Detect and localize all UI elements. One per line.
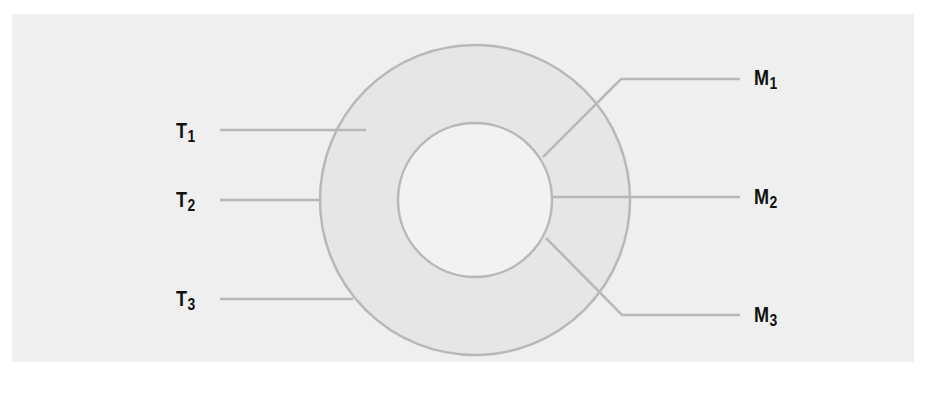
label-t2-letter: T: [176, 187, 187, 212]
label-t1-letter: T: [176, 118, 187, 143]
label-t1: T1: [176, 120, 195, 145]
label-m2-index: 2: [769, 193, 776, 212]
label-t2: T2: [176, 189, 195, 214]
label-m3-index: 3: [769, 311, 776, 330]
label-m1: M1: [754, 67, 777, 92]
figure-caption: [22, 380, 722, 395]
label-m1-letter: M: [754, 65, 769, 90]
label-m2-letter: M: [754, 184, 769, 209]
label-m3-letter: M: [754, 302, 769, 327]
label-m3: M3: [754, 304, 777, 329]
label-m1-index: 1: [769, 74, 776, 93]
label-t2-index: 2: [187, 196, 194, 215]
label-t1-index: 1: [187, 127, 194, 146]
label-t3: T3: [176, 288, 195, 313]
inner-ring: [398, 123, 552, 277]
label-m2: M2: [754, 186, 777, 211]
label-t3-index: 3: [187, 295, 194, 314]
label-t3-letter: T: [176, 286, 187, 311]
ring-diagram: [0, 0, 950, 395]
